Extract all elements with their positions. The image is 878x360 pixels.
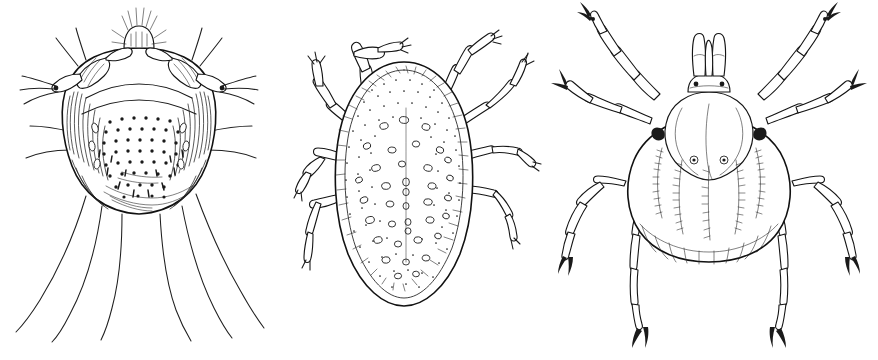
leg-three-left (558, 176, 626, 276)
hypostome (705, 40, 712, 76)
leg-three-right (792, 176, 860, 276)
claw-two-right (850, 69, 867, 90)
dermanyssus-drawing (294, 30, 541, 306)
posterior-setae-group (16, 194, 264, 342)
leg-third-right (464, 146, 541, 171)
gnathosoma (124, 26, 154, 48)
leg-fourth-right (468, 186, 520, 249)
illustration-plate (0, 0, 878, 360)
claw-second-left (308, 52, 325, 64)
leg-one-left (577, 2, 660, 100)
figure-ixodid-tick (542, 0, 878, 360)
claw-four-right (770, 327, 786, 348)
claw-three-right (845, 256, 860, 276)
claw-four-left (632, 327, 648, 348)
figure-dermanyssus-mite (292, 0, 542, 360)
claw-two-left (551, 69, 568, 90)
leg-one-right (758, 2, 841, 100)
figure-sarcoptes-mite (0, 0, 292, 360)
sarcoptes-drawing (16, 8, 264, 342)
claw-three-left (558, 256, 573, 276)
leg-second-right (458, 53, 534, 126)
ixodid-drawing (551, 2, 867, 348)
